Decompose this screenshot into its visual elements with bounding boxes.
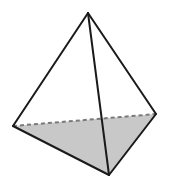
tetrahedron-diagram: [0, 0, 169, 189]
figure-container: [0, 0, 169, 189]
